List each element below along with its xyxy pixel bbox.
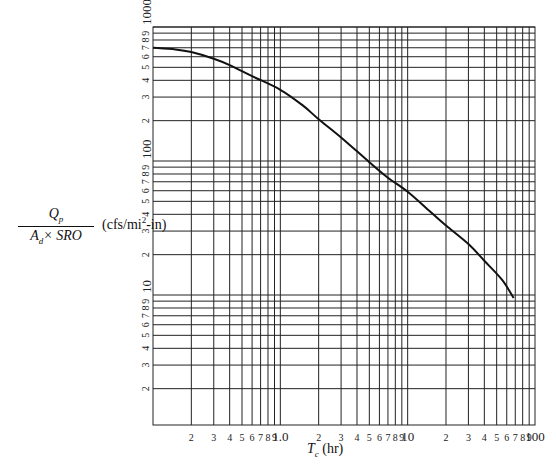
- x-tick-label: 1.0: [272, 429, 288, 444]
- y-tick-label: 5: [141, 65, 152, 70]
- x-tick-label: 7: [258, 432, 263, 443]
- x-tick-label: 3: [211, 432, 216, 443]
- y-axis-fraction: Qp Ad× SRO: [18, 206, 94, 246]
- units-pre: (cfs/mi: [102, 217, 142, 232]
- y-tick-label: 3: [141, 95, 152, 100]
- y-tick-label: 4: [141, 78, 152, 83]
- x-tick-label: 4: [482, 432, 487, 443]
- y-tick-labels: 234567891023456789100234567891000: [139, 0, 154, 391]
- x-tick-label: 5: [367, 432, 372, 443]
- y-tick-label: 7: [141, 45, 152, 50]
- x-tick-label: 2: [443, 432, 448, 443]
- y-tick-label: 7: [141, 179, 152, 184]
- y-tick-label: 8: [141, 171, 152, 176]
- x-tick-label: 8: [265, 432, 270, 443]
- x-tick-label: 5: [240, 432, 245, 443]
- units-post: -in): [146, 217, 166, 232]
- x-tick-label: 7: [513, 432, 518, 443]
- y-tick-label: 2: [141, 386, 152, 391]
- x-axis-units: (hr): [322, 441, 343, 456]
- y-tick-label: 5: [141, 199, 152, 204]
- y-axis-denominator: Ad× SRO: [18, 227, 94, 246]
- denominator-symbol: A: [30, 228, 39, 243]
- x-tick-label: 8: [393, 432, 398, 443]
- y-axis-label: Qp Ad× SRO (cfs/mi2-in): [18, 206, 168, 266]
- x-tick-label: 10: [401, 429, 414, 444]
- y-gridlines: [153, 27, 535, 389]
- x-tick-label: 6: [504, 432, 509, 443]
- y-tick-label: 3: [141, 363, 152, 368]
- x-tick-label: 6: [250, 432, 255, 443]
- denominator-rest: × SRO: [43, 228, 82, 243]
- y-tick-label: 2: [141, 118, 152, 123]
- y-tick-label: 5: [141, 333, 152, 338]
- x-tick-label: 4: [227, 432, 232, 443]
- y-axis-units: (cfs/mi2-in): [102, 215, 166, 233]
- x-tick-label: 100: [525, 429, 545, 444]
- y-axis-numerator: Qp: [18, 206, 94, 227]
- x-tick-label: 7: [385, 432, 390, 443]
- x-axis-subscript: c: [315, 449, 319, 459]
- y-tick-label: 10: [139, 280, 154, 293]
- y-tick-label: 9: [141, 165, 152, 170]
- y-tick-label: 4: [141, 346, 152, 351]
- x-tick-labels: 234567891.0234567891023456789100: [189, 429, 545, 444]
- numerator-subscript: p: [59, 214, 64, 224]
- y-tick-label: 6: [141, 54, 152, 59]
- y-tick-label: 7: [141, 313, 152, 318]
- y-tick-label: 6: [141, 188, 152, 193]
- x-tick-label: 2: [189, 432, 194, 443]
- x-axis-symbol: T: [307, 441, 315, 456]
- series-line: [153, 48, 514, 298]
- y-tick-label: 100: [139, 140, 154, 160]
- x-axis-label: Tc (hr): [307, 441, 343, 459]
- y-tick-label: 8: [141, 305, 152, 310]
- y-tick-label: 1000: [139, 0, 154, 25]
- y-tick-label: 9: [141, 31, 152, 36]
- x-tick-label: 5: [494, 432, 499, 443]
- numerator-symbol: Q: [49, 206, 59, 221]
- y-tick-label: 9: [141, 299, 152, 304]
- x-tick-label: 4: [354, 432, 359, 443]
- x-tick-label: 6: [377, 432, 382, 443]
- y-tick-label: 8: [141, 37, 152, 42]
- x-tick-label: 3: [466, 432, 471, 443]
- y-tick-label: 6: [141, 322, 152, 327]
